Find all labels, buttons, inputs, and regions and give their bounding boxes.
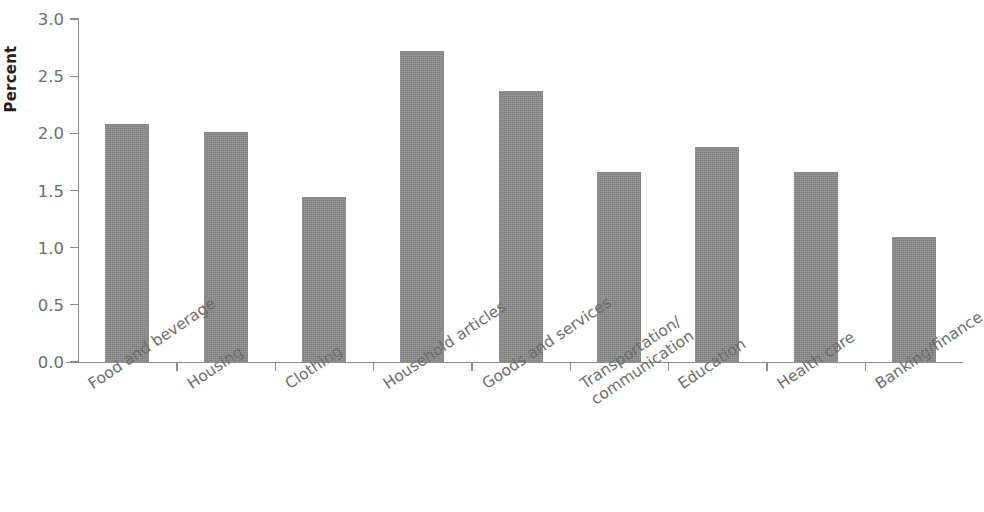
x-axis-tick: [766, 362, 767, 371]
bar: [302, 197, 346, 362]
y-axis-tick-label: 1.5: [24, 181, 64, 200]
x-axis-tick: [865, 362, 866, 371]
bar-chart: Percent 0.00.51.01.52.02.53.0 Food and b…: [0, 0, 984, 512]
x-axis-tick: [570, 362, 571, 371]
bar: [204, 132, 248, 362]
y-axis-tick-label: 2.0: [24, 124, 64, 143]
bar: [695, 147, 739, 362]
y-axis-tick-label: 0.0: [24, 353, 64, 372]
bar: [794, 172, 838, 362]
x-axis-tick: [471, 362, 472, 371]
x-axis-tick: [668, 362, 669, 371]
y-axis-title: Percent: [2, 14, 26, 144]
y-axis-tick-label: 0.5: [24, 295, 64, 314]
y-axis-tick-label: 1.0: [24, 238, 64, 257]
y-axis-tick-label: 2.5: [24, 67, 64, 86]
y-axis-tick-label: 3.0: [24, 10, 64, 29]
bar: [105, 124, 149, 362]
plot-area: [78, 19, 963, 362]
bar: [597, 172, 641, 362]
x-axis-tick: [176, 362, 177, 371]
bar: [400, 51, 444, 362]
x-axis-tick: [275, 362, 276, 371]
bar: [892, 237, 936, 362]
x-axis-tick: [373, 362, 374, 371]
bar: [499, 91, 543, 362]
